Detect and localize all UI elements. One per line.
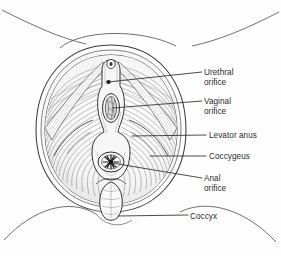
left-thigh-contour (2, 10, 86, 44)
left-buttock-contour (4, 206, 96, 240)
label-vaginal-orifice: Vaginal orifice (204, 97, 231, 116)
anal-orifice (98, 152, 124, 172)
label-urethral-orifice: Urethral orifice (204, 68, 234, 87)
label-anal-orifice: Anal orifice (204, 174, 226, 193)
pelvic-floor-illustration (0, 0, 281, 256)
right-thigh-contour (192, 12, 279, 46)
label-levator-anus: Levator anus (209, 131, 257, 141)
figure-page: Urethral orifice Vaginal orifice Levator… (0, 0, 281, 256)
label-coccyx: Coccyx (190, 212, 217, 222)
label-coccygeus: Coccygeus (209, 152, 250, 162)
leader-coccyx (118, 215, 188, 216)
